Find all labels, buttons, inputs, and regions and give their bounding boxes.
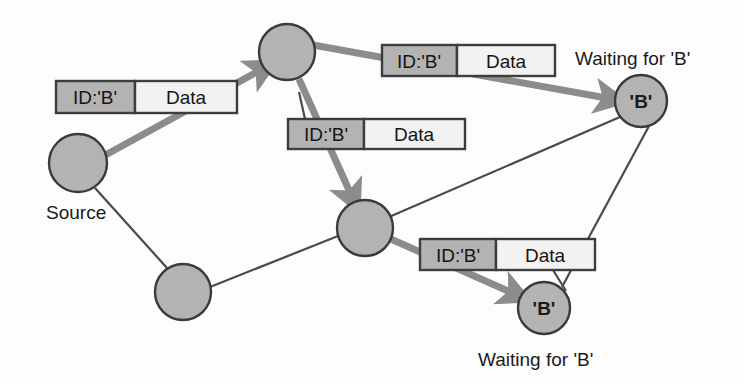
node-relay-top[interactable] — [259, 24, 315, 80]
caption-waiting-upper: Waiting for 'B' — [575, 48, 690, 69]
caption-waiting-lower: Waiting for 'B' — [478, 349, 593, 370]
node-group: 'B' 'B' — [49, 24, 667, 334]
node-source[interactable] — [49, 134, 107, 192]
link-source-to-relay-bottom-left — [95, 188, 167, 268]
packet-1-data-label: Data — [166, 87, 207, 108]
packet-1-id-label: ID:'B' — [73, 87, 117, 108]
packet-4[interactable]: ID:'B' Data — [420, 239, 595, 270]
node-relay-mid[interactable] — [337, 200, 393, 256]
link-relay-bottom-left-to-relay-mid — [210, 236, 338, 287]
diagram-canvas: 'B' 'B' ID:'B' Data ID:'B' Data — [0, 0, 744, 384]
packet-2-id-label: ID:'B' — [304, 124, 348, 145]
packet-2[interactable]: ID:'B' Data — [288, 119, 465, 149]
node-relay-bottom-left[interactable] — [155, 264, 211, 320]
caption-source: Source — [46, 202, 106, 223]
network-flooding-diagram: 'B' 'B' ID:'B' Data ID:'B' Data — [0, 0, 744, 384]
packet-4-id-label: ID:'B' — [436, 245, 480, 266]
packet-4-data-label: Data — [525, 245, 566, 266]
node-dest-upper-label: 'B' — [630, 91, 653, 112]
packet-2-data-label: Data — [394, 124, 435, 145]
packet-3[interactable]: ID:'B' Data — [382, 45, 555, 76]
packet-3-id-label: ID:'B' — [397, 51, 441, 72]
node-dest-lower-label: 'B' — [533, 298, 556, 319]
packet-1[interactable]: ID:'B' Data — [56, 81, 237, 113]
packet-3-data-label: Data — [486, 51, 527, 72]
